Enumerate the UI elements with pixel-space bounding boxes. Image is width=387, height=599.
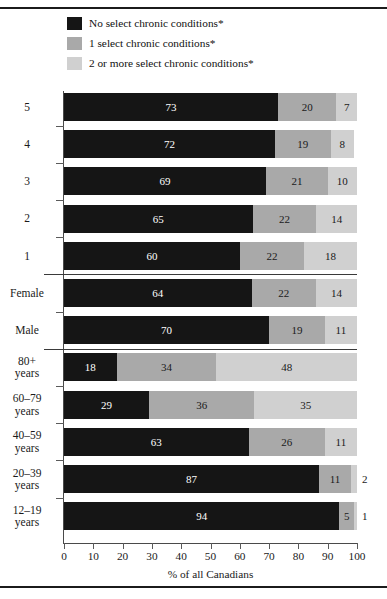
y-axis-tick	[56, 498, 64, 499]
legend-label-none: No select chronic conditions*	[89, 17, 224, 30]
y-axis-tick	[56, 163, 64, 164]
legend-item-none: No select chronic conditions*	[67, 14, 367, 32]
bar-segment-none: 72	[64, 130, 275, 158]
x-axis-tick-label: 80	[283, 550, 313, 562]
x-axis-tick-label: 0	[49, 550, 79, 562]
bar-segment-none: 94	[64, 502, 339, 530]
bar-segment-one: 34	[117, 353, 217, 381]
bar-row: 6921103	[64, 167, 357, 195]
x-axis-title: % of all Canadians	[64, 568, 357, 580]
group-separator	[44, 349, 357, 350]
bar-segment-two_or_more: 14	[316, 205, 357, 233]
bar-segment-two_or_more: 10	[328, 167, 357, 195]
y-axis-tick	[56, 460, 64, 461]
bar-segment-one: 20	[278, 93, 337, 121]
bar-segment-none: 64	[64, 279, 252, 307]
y-axis-tick	[56, 312, 64, 313]
x-axis-tick	[211, 543, 212, 549]
x-axis-tick	[328, 543, 329, 549]
group-separator	[44, 274, 357, 275]
bar-segment-one: 5	[339, 502, 354, 530]
legend-swatch-two_or_more	[67, 57, 82, 70]
legend-item-one: 1 select chronic conditions*	[67, 34, 367, 52]
x-axis-tick	[93, 543, 94, 549]
bar-value-label-two_or_more: 1	[357, 502, 368, 530]
legend-label-two_or_more: 2 or more select chronic conditions*	[89, 57, 254, 70]
bar-row: 94512–19 years	[64, 502, 357, 530]
bar-row: 642214Female	[64, 279, 357, 307]
bar-row: 63261140–59 years	[64, 428, 357, 456]
bar-segment-none: 70	[64, 316, 269, 344]
y-axis-category-label: 80+ years	[2, 353, 52, 381]
y-axis-tick	[56, 386, 64, 387]
x-axis-tick	[152, 543, 153, 549]
legend-swatch-one	[67, 37, 82, 50]
bar-segment-none: 63	[64, 428, 249, 456]
bar-row: 6522142	[64, 205, 357, 233]
bar-segment-two_or_more: 11	[325, 316, 357, 344]
x-axis-tick-label: 70	[254, 550, 284, 562]
bar-segment-one: 19	[275, 130, 331, 158]
bar-row: 29363560–79 years	[64, 391, 357, 419]
bar-segment-two_or_more: 7	[336, 93, 357, 121]
bar-segment-two_or_more: 11	[325, 428, 357, 456]
legend-label-one: 1 select chronic conditions*	[89, 37, 215, 50]
bar-segment-one: 26	[249, 428, 325, 456]
y-axis-category-label: 60–79 years	[2, 391, 52, 419]
bar-segment-two_or_more: 48	[216, 353, 357, 381]
bar-segment-none: 73	[64, 93, 278, 121]
x-axis-tick-label: 10	[78, 550, 108, 562]
bar-segment-none: 87	[64, 465, 319, 493]
bar-row: 18344880+ years	[64, 353, 357, 381]
bar-segment-two_or_more	[351, 465, 357, 493]
x-axis-tick	[269, 543, 270, 549]
y-axis-category-label: 12–19 years	[2, 502, 52, 530]
bar-row: 871120–39 years	[64, 465, 357, 493]
y-axis-tick	[56, 237, 64, 238]
x-axis-tick-label: 40	[166, 550, 196, 562]
x-axis-tick-label: 60	[225, 550, 255, 562]
legend-swatch-none	[67, 17, 82, 30]
bar-segment-one: 21	[266, 167, 328, 195]
bar-row: 701911Male	[64, 316, 357, 344]
bar-segment-one: 36	[149, 391, 254, 419]
bar-segment-none: 69	[64, 167, 266, 195]
bar-segment-one: 22	[240, 242, 304, 270]
bar-value-label-two_or_more: 2	[357, 465, 368, 493]
bar-row: 6022181	[64, 242, 357, 270]
chart-plot-area: 732075721984692110365221426022181642214F…	[64, 91, 357, 543]
x-axis-tick	[123, 543, 124, 549]
y-axis-tick	[56, 126, 64, 127]
bar-segment-none: 60	[64, 242, 240, 270]
y-axis-category-label: 20–39 years	[2, 465, 52, 493]
x-axis-tick-label: 100	[342, 550, 372, 562]
legend-item-two_or_more: 2 or more select chronic conditions*	[67, 54, 367, 72]
x-axis-tick-label: 90	[313, 550, 343, 562]
bar-segment-one: 19	[269, 316, 325, 344]
x-axis-tick	[181, 543, 182, 549]
bar-segment-two_or_more	[354, 502, 357, 530]
x-axis-tick	[64, 543, 65, 549]
x-axis-tick	[298, 543, 299, 549]
x-axis-tick	[357, 543, 358, 549]
bar-segment-two_or_more: 18	[304, 242, 357, 270]
bar-segment-one: 11	[319, 465, 351, 493]
bar-segment-two_or_more: 8	[331, 130, 354, 158]
chart-legend: No select chronic conditions*1 select ch…	[67, 14, 367, 74]
bottom-rule	[0, 586, 387, 588]
bar-segment-two_or_more: 35	[254, 391, 357, 419]
y-axis-tick	[56, 423, 64, 424]
y-axis-title-wrap: (lowest) — Income quintile† — (highest)	[13, 95, 29, 355]
bar-row: 721984	[64, 130, 357, 158]
bar-segment-two_or_more: 14	[316, 279, 357, 307]
x-axis-tick-label: 30	[137, 550, 167, 562]
bar-segment-one: 22	[252, 279, 316, 307]
bar-segment-none: 65	[64, 205, 253, 233]
bar-segment-none: 29	[64, 391, 149, 419]
x-axis-tick-label: 50	[196, 550, 226, 562]
bar-segment-none: 18	[64, 353, 117, 381]
x-axis-tick	[240, 543, 241, 549]
y-axis-category-label: 40–59 years	[2, 428, 52, 456]
y-axis-tick	[56, 200, 64, 201]
top-rule	[0, 7, 387, 9]
